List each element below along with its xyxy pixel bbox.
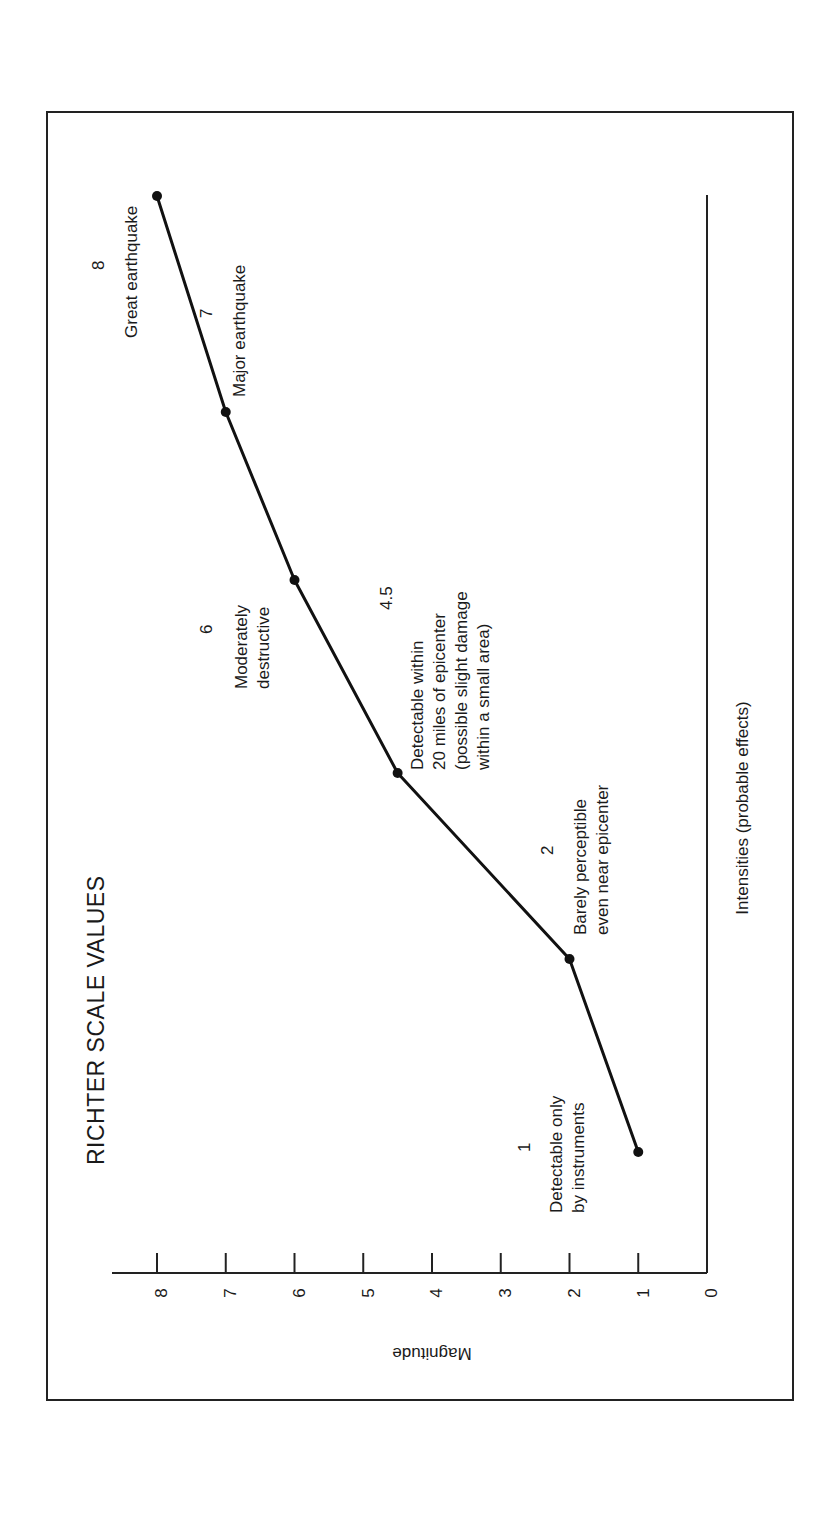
data-point <box>633 1147 643 1157</box>
magnitude-value-label: 1 <box>515 1143 534 1152</box>
effect-description: within a small area) <box>474 624 493 771</box>
effect-description: Great earthquake <box>122 206 141 338</box>
effect-description: destructive <box>254 607 273 689</box>
data-point <box>152 191 162 201</box>
plot-area: 012345678 1Detectable onlyby instruments… <box>83 191 752 1363</box>
effect-description: Detectable only <box>547 1095 566 1213</box>
point-annotations: 1Detectable onlyby instruments2Barely pe… <box>89 206 612 1213</box>
effect-description: even near epicenter <box>593 784 612 935</box>
magnitude-tick-labels: 012345678 <box>152 1288 721 1297</box>
magnitude-ticks <box>157 1253 638 1273</box>
tick-label: 0 <box>702 1288 721 1297</box>
chart-title: RICHTER SCALE VALUES <box>83 876 109 1165</box>
point-annotation: 6Moderatelydestructive <box>197 604 273 689</box>
x-axis-label: Intensities (probable effects) <box>733 701 752 914</box>
tick-label: 8 <box>152 1288 171 1297</box>
point-annotation: 1Detectable onlyby instruments <box>515 1095 588 1213</box>
data-point <box>393 768 403 778</box>
point-annotation: 4.5Detectable within20 miles of epicente… <box>377 586 493 771</box>
magnitude-value-label: 8 <box>89 261 108 270</box>
effect-description: by instruments <box>569 1102 588 1213</box>
magnitude-value-label: 6 <box>197 625 216 634</box>
point-annotation: 7Major earthquake <box>197 265 249 397</box>
data-point <box>565 954 575 964</box>
effect-description: Major earthquake <box>230 265 249 397</box>
effect-description: Barely perceptible <box>571 799 590 935</box>
effect-description: Moderately <box>232 604 251 689</box>
data-point <box>290 575 300 585</box>
magnitude-value-label: 7 <box>197 309 216 318</box>
effect-description: (possible slight damage <box>452 591 471 770</box>
effect-description: 20 miles of epicenter <box>430 613 449 770</box>
effect-description: Detectable within <box>408 641 427 770</box>
point-annotation: 8Great earthquake <box>89 206 141 338</box>
y-axis-label: Magnitude <box>392 1344 471 1363</box>
magnitude-value-label: 4.5 <box>377 586 396 610</box>
tick-label: 4 <box>427 1288 446 1297</box>
richter-series-points <box>152 191 643 1157</box>
tick-label: 5 <box>359 1288 378 1297</box>
data-point <box>221 407 231 417</box>
point-annotation: 2Barely perceptibleeven near epicenter <box>538 784 612 935</box>
tick-label: 3 <box>496 1288 515 1297</box>
tick-label: 6 <box>290 1288 309 1297</box>
richter-chart: 012345678 1Detectable onlyby instruments… <box>0 0 840 1532</box>
tick-label: 7 <box>221 1288 240 1297</box>
magnitude-value-label: 2 <box>538 846 557 855</box>
tick-label: 2 <box>565 1288 584 1297</box>
tick-label: 1 <box>634 1288 653 1297</box>
